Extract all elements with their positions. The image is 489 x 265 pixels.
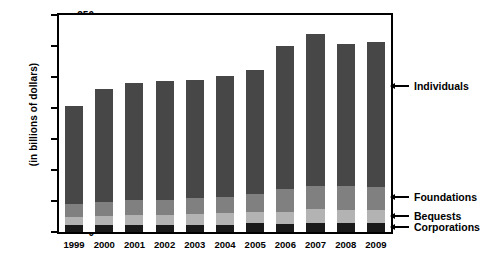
stacked-bar-chart: (in billions of dollars) 050100150200250… [0,0,489,265]
legend-callout-foundations: Foundations [390,191,477,203]
bar-segment-bequests [65,217,83,226]
bar-segment-individuals [186,80,204,198]
bar-group [337,44,355,232]
bar-segment-foundations [186,198,204,214]
bar-segment-bequests [216,213,234,224]
bar-segment-foundations [246,194,264,211]
x-tick-label: 2009 [365,239,386,250]
x-tick-label: 2003 [184,239,205,250]
legend-callout-individuals: Individuals [390,80,469,92]
x-tick-label: 2006 [275,239,296,250]
bar-segment-corporations [65,225,83,232]
callout-label: Corporations [414,221,480,233]
bar-group [125,83,143,232]
bar-segment-corporations [306,223,324,232]
bar-segment-bequests [95,216,113,225]
legend-callout-corporations: Corporations [390,221,480,233]
bar-segment-corporations [216,225,234,232]
bar-segment-individuals [65,106,83,204]
bar-group [156,81,174,232]
callout-leader-line [395,196,409,198]
bar-segment-individuals [95,89,113,202]
bar-group [246,70,264,232]
x-tick-label: 2004 [214,239,235,250]
bar-segment-individuals [216,76,234,197]
plot-area [57,13,393,234]
bar-segment-foundations [216,197,234,214]
x-tick-label: 2008 [335,239,356,250]
bar-segment-corporations [276,224,294,232]
bars-layer [59,15,391,232]
bar-segment-bequests [125,215,143,225]
bar-segment-foundations [276,189,294,211]
callout-leader-line [395,85,409,87]
bar-segment-bequests [156,215,174,225]
x-tick-label: 2002 [154,239,175,250]
bar-segment-individuals [276,46,294,189]
bar-segment-foundations [367,187,385,211]
x-tick-label: 2007 [305,239,326,250]
bar-segment-bequests [337,210,355,223]
bar-segment-foundations [306,186,324,209]
bar-segment-bequests [246,212,264,224]
bar-group [367,42,385,232]
bar-segment-foundations [156,200,174,216]
bar-segment-individuals [125,83,143,201]
x-tick-label: 2001 [124,239,145,250]
callout-leader-line [395,215,409,217]
bar-segment-corporations [337,223,355,232]
bar-group [65,106,83,232]
callout-label: Foundations [414,191,477,203]
bar-segment-bequests [367,210,385,223]
callout-label: Individuals [414,80,469,92]
bar-segment-corporations [367,223,385,232]
x-tick-label: 1999 [64,239,85,250]
bar-segment-corporations [125,225,143,232]
bar-group [276,46,294,232]
bar-segment-foundations [337,186,355,210]
bar-segment-individuals [337,44,355,187]
bar-segment-individuals [156,81,174,199]
bar-segment-foundations [125,200,143,215]
y-axis-title: (in billions of dollars) [28,35,39,195]
bar-segment-bequests [276,212,294,224]
bar-segment-foundations [95,202,113,216]
bar-segment-corporations [246,223,264,232]
bar-segment-individuals [306,34,324,186]
callout-leader-line [395,226,409,228]
bar-group [216,76,234,232]
bar-segment-foundations [65,204,83,216]
bar-segment-individuals [367,42,385,187]
bar-segment-corporations [186,225,204,232]
bar-segment-corporations [95,225,113,232]
bar-segment-corporations [156,225,174,232]
bar-segment-individuals [246,70,264,195]
bar-segment-bequests [306,209,324,223]
x-tick-label: 2000 [94,239,115,250]
bar-group [306,34,324,232]
bar-segment-bequests [186,214,204,225]
bar-group [186,80,204,232]
bar-group [95,89,113,232]
x-tick-label: 2005 [245,239,266,250]
